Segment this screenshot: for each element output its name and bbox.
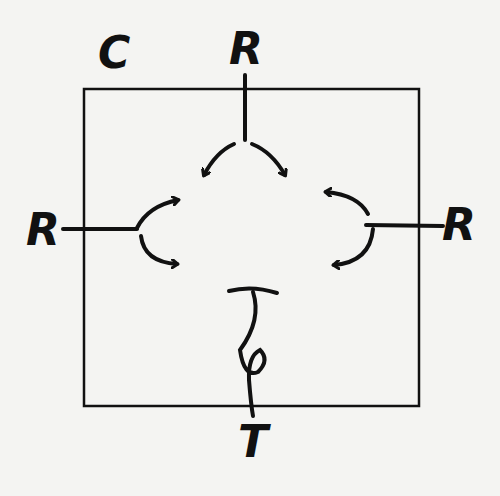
label-top: R: [229, 27, 263, 71]
label-left: R: [26, 208, 60, 252]
left-input-arrows: [63, 200, 178, 264]
label-bottom: T: [238, 420, 268, 464]
label-corner: C: [98, 31, 130, 75]
label-right: R: [442, 203, 476, 247]
bottom-output-twist: [229, 288, 277, 416]
right-input-arrows: [326, 192, 443, 265]
